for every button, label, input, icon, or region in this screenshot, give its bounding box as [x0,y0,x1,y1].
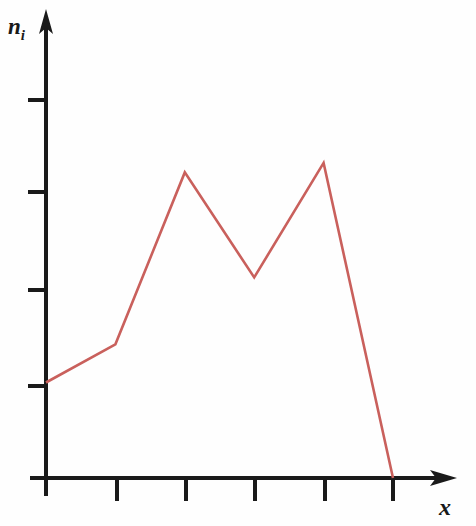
y-axis-label-subscript: i [21,27,25,43]
data-series-line [46,163,393,478]
y-axis-label-text: n [8,14,21,39]
x-axis-ticks [46,460,393,501]
chart-plot-area [0,0,476,526]
y-axis-label: ni [8,14,25,44]
x-axis-label: x [439,494,451,521]
chart-figure: ni x [0,0,476,526]
